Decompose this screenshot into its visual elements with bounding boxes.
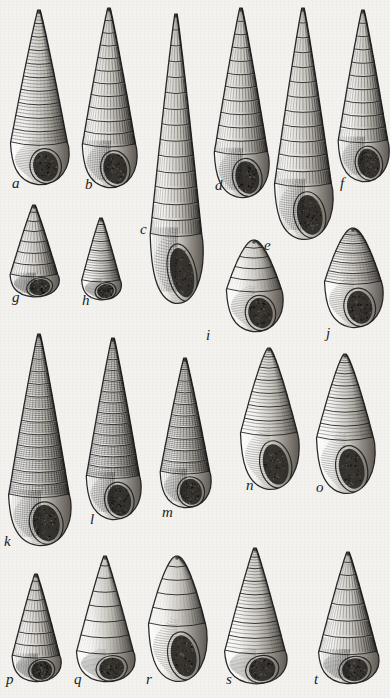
- shell-e: [272, 8, 334, 240]
- shell-n: [238, 348, 300, 490]
- shell-b: [80, 8, 138, 188]
- figure-label-j: j: [326, 326, 330, 341]
- shell-c: [148, 14, 204, 304]
- shell-i: [224, 240, 284, 332]
- figure-label-k: k: [4, 534, 11, 549]
- figure-label-d: d: [215, 178, 223, 193]
- figure-label-r: r: [146, 672, 152, 687]
- shell-o: [314, 354, 376, 494]
- shell-l: [84, 338, 142, 520]
- shell-m: [158, 358, 212, 508]
- shell-g: [8, 205, 60, 297]
- figure-label-c: c: [140, 222, 147, 237]
- shell-s: [222, 548, 288, 684]
- figure-label-n: n: [246, 478, 254, 493]
- figure-label-s: s: [226, 672, 232, 687]
- illustration-plate: abcdefghijklmnopqrst: [0, 0, 390, 698]
- figure-label-b: b: [85, 177, 93, 192]
- shell-q: [74, 556, 136, 682]
- figure-label-h: h: [82, 293, 90, 308]
- figure-label-a: a: [12, 176, 20, 191]
- shell-h: [80, 218, 122, 300]
- shell-r: [146, 556, 208, 682]
- figure-label-o: o: [316, 480, 324, 495]
- figure-label-f: f: [340, 176, 344, 191]
- figure-label-i: i: [206, 328, 210, 343]
- figure-label-g: g: [12, 290, 20, 305]
- figure-label-t: t: [314, 672, 318, 687]
- figure-label-l: l: [90, 512, 94, 527]
- figure-label-e: e: [264, 238, 271, 253]
- shell-j: [322, 228, 384, 328]
- shell-p: [10, 574, 62, 682]
- figure-label-m: m: [162, 505, 173, 520]
- figure-label-q: q: [74, 672, 82, 687]
- shell-d: [212, 8, 270, 198]
- figure-label-p: p: [6, 672, 14, 687]
- shell-k: [6, 334, 72, 546]
- shell-f: [336, 10, 390, 182]
- shell-a: [8, 10, 70, 185]
- shell-t: [316, 552, 380, 684]
